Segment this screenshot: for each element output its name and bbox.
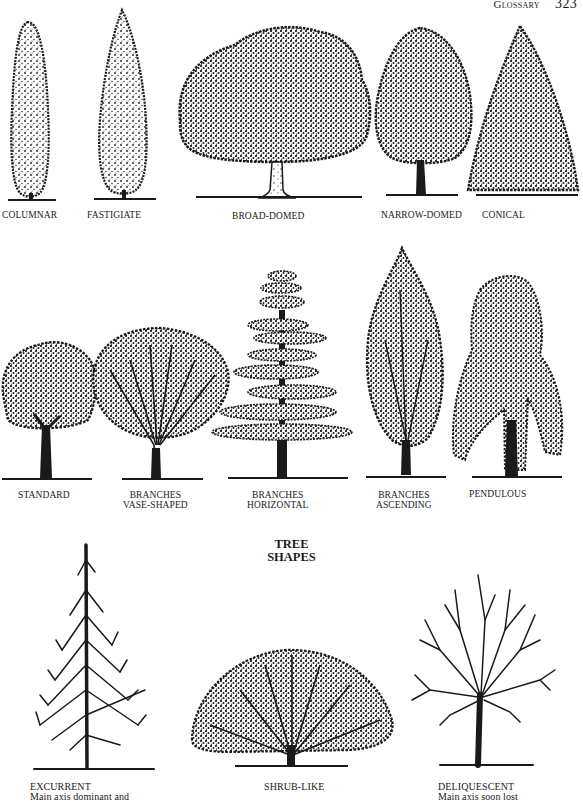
- broad-domed-tree-drawing: [180, 27, 371, 198]
- label-standard: STANDARD: [18, 490, 70, 500]
- ascending-branches-tree-drawing: [366, 248, 446, 477]
- label-horizontal: BRANCHES HORIZONTAL: [247, 490, 308, 510]
- conical-tree-drawing: [468, 26, 578, 195]
- excurrent-tree-drawing: [34, 545, 154, 769]
- deliquescent-caption: Main axis soon lost: [438, 792, 518, 802]
- label-deliquescent: DELIQUESCENT Main axis soon lost: [438, 782, 518, 802]
- standard-tree-drawing: [2, 342, 96, 479]
- horizontal-branches-tree-drawing: [212, 271, 352, 478]
- label-excurrent: EXCURRENT Main axis dominant and: [30, 782, 129, 802]
- label-fastigiate: FASTIGIATE: [87, 210, 141, 220]
- excurrent-caption: Main axis dominant and: [30, 792, 129, 802]
- label-ascending: BRANCHES ASCENDING: [376, 490, 432, 510]
- pendulous-tree-drawing: [453, 276, 562, 477]
- columnar-tree-drawing: [8, 22, 56, 200]
- label-conical: CONICAL: [482, 210, 525, 220]
- deliquescent-tree-drawing: [412, 575, 555, 765]
- label-pendulous: PENDULOUS: [469, 489, 526, 499]
- label-vase-shaped: BRANCHES VASE-SHAPED: [123, 490, 188, 510]
- label-columnar: COLUMNAR: [2, 210, 57, 220]
- label-shrub-like: SHRUB-LIKE: [264, 782, 324, 792]
- label-narrow-domed: NARROW-DOMED: [381, 210, 462, 220]
- shrub-like-tree-drawing: [192, 650, 393, 766]
- fastigiate-tree-drawing: [94, 10, 156, 200]
- vase-shaped-tree-drawing: [93, 328, 228, 479]
- narrow-domed-tree-drawing: [376, 28, 472, 195]
- label-broad-domed: BROAD-DOMED: [232, 211, 304, 221]
- figure-title: TREE SHAPES: [0, 538, 583, 564]
